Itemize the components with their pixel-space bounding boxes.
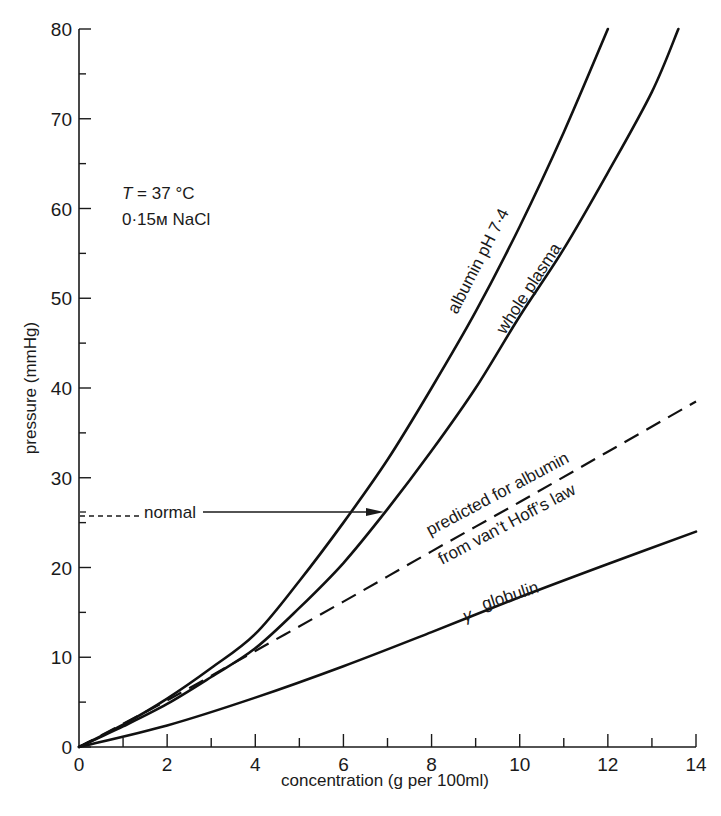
y-axis-title: pressure (mmHg) — [21, 322, 40, 454]
temperature-label: T = 37 °C — [122, 184, 194, 203]
x-ticks: 02468101214 — [74, 734, 707, 775]
globulin-curve-label: globulin — [479, 578, 541, 614]
y-tick-label: 50 — [51, 288, 72, 309]
osmotic-pressure-chart: 01020304050607080 02468101214 pressure (… — [0, 0, 721, 816]
gamma-globulin-curve — [79, 532, 696, 747]
whole-plasma-curve — [79, 29, 678, 747]
albumin-curve — [79, 29, 608, 747]
whole-plasma-curve-label: whole plasma — [492, 239, 565, 338]
x-tick-label: 10 — [509, 754, 530, 775]
y-tick-label: 0 — [61, 737, 72, 758]
arrowhead-icon — [366, 508, 384, 516]
x-tick-label: 14 — [685, 754, 707, 775]
axes — [79, 29, 696, 747]
x-axis-title: concentration (g per 100ml) — [281, 771, 489, 790]
normal-label: normal — [144, 503, 196, 522]
salt-label: 0·15м NaCl — [122, 210, 210, 229]
y-tick-label: 30 — [51, 468, 72, 489]
y-tick-label: 20 — [51, 558, 72, 579]
x-tick-label: 2 — [162, 754, 173, 775]
y-tick-label: 80 — [51, 19, 72, 40]
normal-annotation: normal — [80, 503, 384, 522]
y-ticks: 01020304050607080 — [51, 19, 91, 758]
y-tick-label: 10 — [51, 647, 72, 668]
y-tick-label: 60 — [51, 199, 72, 220]
y-tick-label: 40 — [51, 378, 72, 399]
x-tick-label: 0 — [74, 754, 85, 775]
x-tick-label: 4 — [250, 754, 261, 775]
y-tick-label: 70 — [51, 109, 72, 130]
x-tick-label: 12 — [597, 754, 618, 775]
curves — [79, 29, 696, 747]
